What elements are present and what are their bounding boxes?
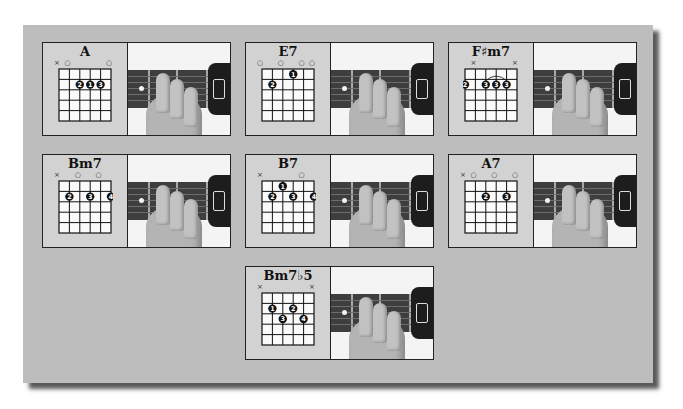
finger [373,79,387,119]
chord-name: Bm7 [43,156,127,171]
open-string-icon: ○ [257,60,263,67]
chord-name: A7 [449,156,533,171]
svg-text:3: 3 [504,193,509,201]
open-muted-markers: ×○○ [57,172,109,180]
svg-text:4: 4 [312,193,316,201]
finger [590,199,604,239]
svg-text:3: 3 [291,193,296,201]
open-muted-markers: ×× [463,60,515,68]
muted-string-icon: × [512,60,518,67]
svg-text:3: 3 [88,193,93,201]
finger [359,185,373,225]
open-string-icon: ○ [278,60,284,67]
fret-inlay-dot [139,86,144,91]
chord-diagram: Bm7 ×○○ 234 [43,155,128,247]
chord-card-bm7b5: Bm7♭5 ×× 1324 [245,266,434,360]
svg-text:2: 2 [67,193,72,201]
svg-text:2: 2 [463,81,467,89]
open-string-icon: ○ [512,172,518,179]
svg-text:2: 2 [78,81,83,89]
finger [156,73,170,113]
svg-text:1: 1 [281,183,286,191]
chord-card-bm7: Bm7 ×○○ 234 [42,154,231,248]
finger [387,311,401,351]
muted-string-icon: × [460,172,466,179]
open-string-icon: ○ [309,60,315,67]
svg-text:2: 2 [270,81,275,89]
svg-text:1: 1 [270,305,275,313]
fret-inlay-dot [545,86,550,91]
muted-string-icon: × [470,60,476,67]
chord-card-fsharp-m7: F♯m7 ×× 2333 [448,42,637,136]
fretboard-grid: 213 [57,68,109,120]
fret-inlay-dot [545,198,550,203]
hand-position-photo [128,43,230,135]
hand-position-photo [331,43,433,135]
svg-text:2: 2 [484,193,489,201]
chord-card-a: A ×○○ 213 [42,42,231,136]
fretboard-grid: 2333 [463,68,515,120]
open-string-icon: ○ [106,60,112,67]
fretboard-grid: 1234 [260,180,312,232]
open-muted-markers: ×○ [260,172,312,180]
guitar-headstock [208,175,230,227]
hand-position-photo [331,267,433,359]
open-muted-markers: ×○○ [57,60,109,68]
chord-diagram: Bm7♭5 ×× 1324 [246,267,331,359]
muted-string-icon: × [54,172,60,179]
open-string-icon: ○ [470,172,476,179]
finger [359,73,373,113]
fret-inlay-dot [342,86,347,91]
fretboard-grid: 1324 [260,292,312,344]
svg-text:3: 3 [494,81,499,89]
fretboard-grid: 234 [57,180,109,232]
muted-string-icon: × [257,284,263,291]
open-string-icon: ○ [64,60,70,67]
hand-position-photo [534,155,636,247]
chord-chart-panel: A ×○○ 213 E7 ○○○○ 21 [23,25,653,383]
chord-name: A [43,44,127,59]
svg-text:1: 1 [291,71,296,79]
svg-text:3: 3 [484,81,489,89]
svg-text:2: 2 [291,305,296,313]
finger [156,185,170,225]
chord-name: B7 [246,156,330,171]
chord-name: F♯m7 [449,44,533,59]
chord-name: Bm7♭5 [246,268,330,283]
finger [184,87,198,127]
finger [562,73,576,113]
finger [387,199,401,239]
open-string-icon: ○ [299,60,305,67]
finger [590,87,604,127]
chord-diagram: B7 ×○ 1234 [246,155,331,247]
chord-diagram: E7 ○○○○ 21 [246,43,331,135]
finger [359,297,373,337]
svg-text:2: 2 [270,193,275,201]
fret-inlay-dot [139,198,144,203]
open-string-icon: ○ [96,172,102,179]
open-string-icon: ○ [75,172,81,179]
guitar-headstock [208,63,230,115]
svg-text:3: 3 [504,81,509,89]
muted-string-icon: × [257,172,263,179]
chord-diagram: A ×○○ 213 [43,43,128,135]
chord-diagram: A7 ×○○○ 23 [449,155,534,247]
finger [184,199,198,239]
finger [387,87,401,127]
open-muted-markers: ○○○○ [260,60,312,68]
finger [576,79,590,119]
chord-card-a7: A7 ×○○○ 23 [448,154,637,248]
muted-string-icon: × [54,60,60,67]
guitar-headstock [411,287,433,339]
guitar-headstock [614,175,636,227]
open-string-icon: ○ [491,172,497,179]
chord-name: E7 [246,44,330,59]
chord-card-e7: E7 ○○○○ 21 [245,42,434,136]
finger [562,185,576,225]
chord-diagram: F♯m7 ×× 2333 [449,43,534,135]
hand-position-photo [331,155,433,247]
open-muted-markers: ×× [260,284,312,292]
svg-text:3: 3 [98,81,103,89]
finger [170,79,184,119]
muted-string-icon: × [309,284,315,291]
